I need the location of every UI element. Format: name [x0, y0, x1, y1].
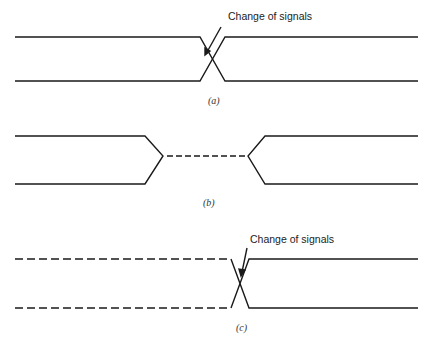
- timing-diagrams: [0, 0, 437, 346]
- diagram-b-lines: [15, 136, 418, 184]
- annotation-a: Change of signals: [228, 10, 312, 22]
- caption-c: (c): [236, 322, 247, 333]
- diagram-c-arrow-icon: [239, 248, 247, 276]
- diagram-a-lines: [15, 37, 418, 81]
- caption-a: (a): [208, 95, 220, 106]
- diagram-c-lines: [15, 259, 418, 308]
- annotation-c: Change of signals: [250, 233, 334, 245]
- caption-b: (b): [203, 197, 215, 208]
- diagram-a-arrow-icon: [205, 27, 221, 55]
